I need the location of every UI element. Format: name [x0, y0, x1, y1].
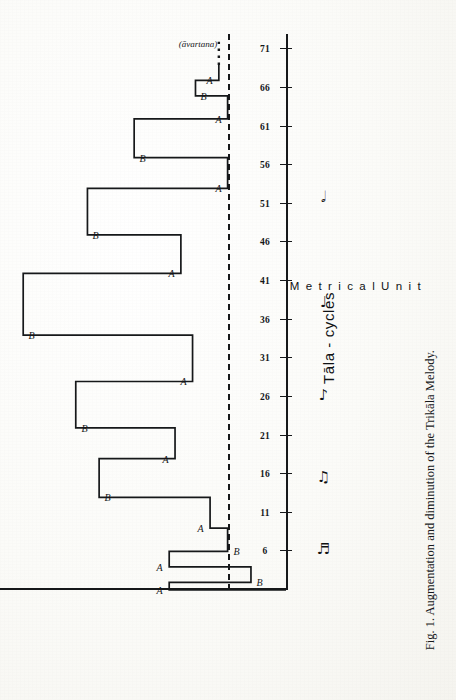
segment-label-a: A	[157, 585, 163, 596]
x-axis-title: M e t r i c a l U n i t	[290, 280, 423, 292]
figure-caption-text: Fig. 1. Augmentation and diminution of t…	[423, 350, 438, 650]
segment-label-b: B	[29, 331, 35, 342]
eighth-note-pair-glyph: ♫	[317, 470, 330, 485]
segment-label-b: B	[93, 230, 99, 241]
step-curve	[0, 12, 368, 652]
step-polyline	[23, 65, 286, 590]
segment-label-b: B	[233, 547, 239, 558]
segment-label-b: B	[256, 578, 262, 589]
segment-label-b: B	[201, 91, 207, 102]
sixteenth-note-pair-glyph: ♬	[317, 542, 330, 557]
segment-label-b: B	[140, 153, 146, 164]
avartana-annotation: (āvartana)	[178, 39, 217, 49]
half-note-glyph: 𝅗𝅥	[321, 190, 326, 205]
segment-label-a: A	[168, 269, 174, 280]
segment-label-b: B	[81, 423, 87, 434]
segment-label-a: A	[206, 76, 212, 87]
figure-stage: 611162126313641465156616671 ABABABABABAB…	[0, 12, 368, 652]
segment-label-a: A	[180, 377, 186, 388]
segment-label-a: A	[162, 454, 168, 465]
plot-area: 611162126313641465156616671 ABABABABABAB…	[0, 12, 368, 652]
figure-caption: Fig. 1. Augmentation and diminution of t…	[423, 350, 438, 650]
eighth-note-glyph: ♪	[319, 388, 329, 403]
quarter-note-glyph: ♩	[320, 295, 327, 310]
segment-label-a: A	[215, 114, 221, 125]
segment-label-a: A	[198, 524, 204, 535]
segment-label-a: A	[215, 184, 221, 195]
segment-label-a: A	[157, 562, 163, 573]
segment-label-b: B	[105, 493, 111, 504]
